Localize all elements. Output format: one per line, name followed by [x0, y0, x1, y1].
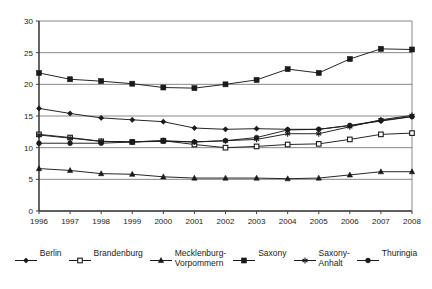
- data-point-open-square: [348, 137, 353, 142]
- data-point-filled-circle: [130, 140, 135, 145]
- y-tick-label: 15: [24, 112, 33, 121]
- data-point-filled-square: [37, 70, 42, 75]
- data-point-diamond: [223, 127, 228, 132]
- data-point-filled-square: [316, 70, 321, 75]
- data-point-filled-circle: [285, 128, 290, 133]
- data-point-filled-circle: [192, 140, 197, 145]
- y-tick-label: 5: [29, 175, 34, 184]
- legend-item-label: Brandenburg: [94, 248, 143, 258]
- data-point-diamond: [161, 119, 166, 124]
- legend-item-mecklenburg[interactable]: Mecklenburg- Vorpommern: [150, 248, 227, 269]
- data-point-filled-square: [347, 57, 352, 62]
- x-tick-label: 1997: [61, 217, 79, 226]
- legend-marker-asterisk-icon: [294, 251, 316, 269]
- series-mecklenburg--vorpommern: [36, 166, 414, 181]
- x-tick-label: 2008: [403, 217, 421, 226]
- chart-legend: BerlinBrandenburgMecklenburg- Vorpommern…: [0, 248, 432, 269]
- data-point-filled-square: [285, 67, 290, 72]
- data-point-filled-square: [242, 258, 247, 263]
- data-point-open-square: [285, 142, 290, 147]
- y-tick-label: 20: [24, 80, 33, 89]
- x-tick-label: 2006: [341, 217, 359, 226]
- data-point-diamond: [23, 258, 28, 263]
- data-point-filled-circle: [365, 258, 370, 263]
- legend-item-label: Saxony: [258, 248, 286, 258]
- data-point-open-square: [223, 145, 228, 150]
- y-tick-label: 0: [29, 207, 34, 216]
- data-point-filled-square: [192, 86, 197, 91]
- data-point-diamond: [130, 117, 135, 122]
- line-chart: 0510152025301996199719981999200020012002…: [0, 0, 432, 289]
- data-point-filled-circle: [99, 141, 104, 146]
- legend-item-label: Berlin: [40, 248, 62, 258]
- x-tick-label: 2004: [279, 217, 297, 226]
- y-tick-label: 30: [24, 17, 33, 26]
- legend-item-brandenburg[interactable]: Brandenburg: [69, 248, 143, 269]
- data-point-open-square: [410, 131, 415, 136]
- legend-item-label: Thuringia: [382, 248, 417, 258]
- data-point-diamond: [254, 126, 259, 131]
- data-point-filled-square: [161, 85, 166, 90]
- data-point-filled-square: [254, 77, 259, 82]
- data-point-diamond: [36, 106, 41, 111]
- y-tick-label: 10: [24, 144, 33, 153]
- legend-marker-filled-circle-icon: [357, 251, 379, 269]
- data-point-open-square: [254, 144, 259, 149]
- x-tick-label: 2000: [154, 217, 172, 226]
- x-tick-label: 2005: [310, 217, 328, 226]
- data-point-filled-square: [223, 82, 228, 87]
- data-point-triangle: [36, 166, 41, 171]
- x-tick-label: 1999: [123, 217, 141, 226]
- series-berlin: [36, 106, 414, 132]
- x-tick-label: 2007: [372, 217, 390, 226]
- data-point-filled-circle: [223, 138, 228, 143]
- data-point-filled-circle: [379, 118, 384, 123]
- data-point-filled-circle: [254, 135, 259, 140]
- legend-item-label: Saxony- Anhalt: [319, 248, 350, 268]
- legend-item-label: Mecklenburg- Vorpommern: [175, 248, 227, 268]
- data-point-filled-square: [99, 79, 104, 84]
- x-tick-label: 1998: [92, 217, 110, 226]
- legend-item-saxony[interactable]: Saxony- Anhalt: [294, 248, 350, 269]
- legend-marker-open-square-icon: [69, 251, 91, 269]
- legend-item-berlin[interactable]: Berlin: [15, 248, 62, 269]
- data-point-filled-circle: [68, 141, 73, 146]
- data-point-filled-square: [410, 47, 415, 52]
- y-tick-label: 25: [24, 49, 33, 58]
- data-point-filled-circle: [37, 141, 42, 146]
- plot-area: 0510152025301996199719981999200020012002…: [0, 0, 432, 248]
- legend-marker-filled-square-icon: [233, 251, 255, 269]
- legend-item-thuringia[interactable]: Thuringia: [357, 248, 417, 269]
- data-point-open-square: [316, 142, 321, 147]
- x-tick-label: 2003: [248, 217, 266, 226]
- x-tick-label: 2001: [186, 217, 204, 226]
- legend-marker-diamond-icon: [15, 251, 37, 269]
- x-tick-label: 1996: [30, 217, 48, 226]
- data-point-open-square: [77, 258, 82, 263]
- data-point-filled-circle: [161, 139, 166, 144]
- legend-marker-triangle-icon: [150, 251, 172, 269]
- data-point-filled-circle: [316, 127, 321, 132]
- data-point-filled-square: [68, 77, 73, 82]
- data-point-filled-square: [378, 46, 383, 51]
- data-point-filled-square: [130, 81, 135, 86]
- data-point-filled-circle: [410, 114, 415, 119]
- data-point-filled-circle: [347, 123, 352, 128]
- series-line: [39, 108, 412, 129]
- x-tick-label: 2002: [217, 217, 235, 226]
- data-point-diamond: [192, 125, 197, 130]
- legend-item-saxony[interactable]: Saxony: [233, 248, 286, 269]
- data-point-open-square: [379, 132, 384, 137]
- data-point-diamond: [67, 111, 72, 116]
